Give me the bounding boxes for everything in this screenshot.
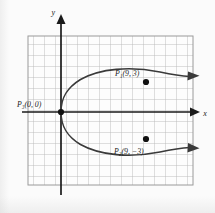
grid-lines [28, 36, 193, 185]
grid-group [28, 36, 193, 185]
x-axis-label: x [202, 109, 207, 118]
x-axis-arrowhead [190, 108, 200, 117]
y-axis-label: y [50, 8, 55, 17]
data-point-p3 [58, 109, 64, 115]
point-label-p2: P₂(9, −3) [113, 147, 144, 156]
point-label-p1: P₁(9, 3) [114, 69, 140, 78]
y-axis-arrowhead [57, 14, 66, 24]
graph-canvas: y x P₁(9, 3) P₂(9, −3) P₃(0, 0) [0, 0, 215, 213]
data-point-p2 [143, 136, 149, 142]
parabola-figure: y x P₁(9, 3) P₂(9, −3) P₃(0, 0) [0, 0, 215, 213]
point-label-p3: P₃(0, 0) [16, 100, 42, 109]
data-point-p1 [143, 79, 149, 85]
